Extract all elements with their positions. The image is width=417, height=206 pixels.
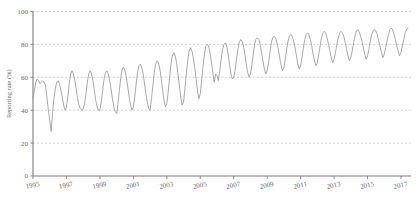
x-tick-label: 2011 (293, 180, 309, 191)
x-tick-label: 2009 (259, 180, 275, 191)
y-axis-title: Reporting rate (%) (5, 69, 13, 118)
chart-container: 020406080100 199519971999200120032005200… (0, 0, 417, 206)
y-axis-tick-labels: 020406080100 (18, 8, 29, 181)
line-chart: 020406080100 199519971999200120032005200… (0, 0, 417, 206)
series-line (33, 28, 408, 132)
y-axis-label: Reporting rate (%) (5, 69, 13, 118)
x-axis (33, 176, 411, 179)
x-tick-label: 2013 (326, 180, 342, 191)
y-tick-label: 40 (21, 107, 29, 115)
y-tick-label: 60 (21, 74, 29, 82)
y-tick-label: 100 (18, 8, 29, 16)
x-tick-label: 1995 (25, 180, 41, 191)
x-tick-label: 1997 (58, 180, 74, 191)
y-tick-label: 0 (25, 172, 29, 180)
y-tick-label: 80 (21, 41, 29, 49)
gridlines (33, 12, 411, 144)
x-tick-label: 2003 (159, 180, 175, 191)
x-tick-label: 2007 (226, 180, 242, 191)
x-tick-label: 2015 (359, 180, 375, 191)
x-tick-label: 2001 (125, 180, 141, 191)
x-tick-label: 2017 (393, 180, 409, 191)
x-tick-label: 2005 (192, 180, 208, 191)
x-tick-label: 1999 (92, 180, 108, 191)
y-axis (31, 12, 34, 177)
y-tick-label: 20 (21, 140, 29, 148)
x-axis-tick-labels: 1995199719992001200320052007200920112013… (25, 180, 409, 191)
data-series-reporting-rate (33, 28, 408, 132)
